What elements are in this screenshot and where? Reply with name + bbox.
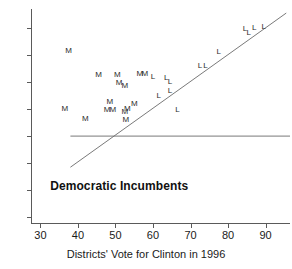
x-tick-label: 30 [28, 230, 52, 241]
data-point-marker-l: L [151, 73, 155, 81]
data-point-marker-l: L [175, 106, 179, 114]
x-tick-label: 90 [254, 230, 278, 241]
data-point-marker-l: L [216, 48, 220, 56]
chart-title-clipped [0, 0, 292, 8]
data-point-marker-m: M [65, 47, 72, 55]
x-tick-label: 60 [141, 230, 165, 241]
regression-line [70, 13, 286, 167]
x-tick-label: 50 [103, 230, 127, 241]
x-tick-label: 80 [216, 230, 240, 241]
plot-area: 2030405060708090 30405060708090 MMMMMMMM… [31, 9, 290, 224]
data-point-marker-m: M [131, 100, 138, 108]
data-point-marker-m: M [109, 106, 116, 114]
x-tick-mark [78, 224, 79, 228]
data-point-marker-l: L [246, 29, 250, 37]
x-tick-mark [115, 224, 116, 228]
data-point-marker-m: M [124, 105, 131, 113]
x-tick-label: 40 [66, 230, 90, 241]
data-point-marker-l: L [168, 87, 172, 95]
plot-annotation-label: Democratic Incumbents [50, 179, 188, 193]
data-point-marker-m: M [61, 105, 68, 113]
x-tick-mark [40, 224, 41, 228]
scatter-chart: 2030405060708090 30405060708090 MMMMMMMM… [0, 0, 292, 269]
x-tick-mark [228, 224, 229, 228]
data-point-marker-m: M [82, 115, 89, 123]
x-tick-mark [191, 224, 192, 228]
data-point-marker-m: M [121, 82, 128, 90]
data-point-marker-m: M [95, 71, 102, 79]
data-point-marker-l: L [168, 78, 172, 86]
x-tick-label: 70 [179, 230, 203, 241]
x-tick-mark [153, 224, 154, 228]
data-point-marker-l: L [198, 62, 202, 70]
data-point-marker-m: M [141, 70, 148, 78]
data-point-marker-l: L [252, 24, 256, 32]
data-point-marker-l: L [156, 92, 160, 100]
data-point-marker-m: M [123, 116, 130, 124]
data-point-marker-l: L [261, 23, 265, 31]
x-axis-title: Districts' Vote for Clinton in 1996 [0, 248, 292, 260]
x-tick-mark [266, 224, 267, 228]
data-point-marker-l: L [203, 62, 207, 70]
